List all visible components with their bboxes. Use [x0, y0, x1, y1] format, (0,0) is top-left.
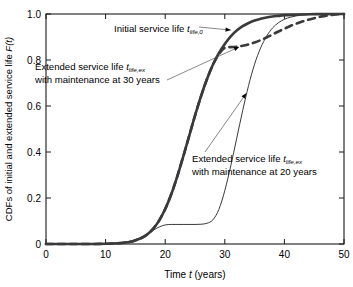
- x-axis-title: Time t (years): [164, 269, 225, 280]
- annotation-ext20-subscript: life,ex: [286, 158, 303, 165]
- annotation-ext30-subscript: life,ex: [129, 66, 146, 73]
- x-tick-label: 30: [219, 249, 231, 260]
- svg-text:CDFs of initial and extended s: CDFs of initial and extended service lif…: [3, 37, 14, 221]
- y-tick-label: 0: [35, 239, 41, 250]
- x-tick-label: 20: [160, 249, 172, 260]
- y-axis-title: CDFs of initial and extended service lif…: [3, 37, 14, 221]
- y-tick-label: 1.0: [27, 9, 41, 20]
- annotation-ext20-line2: with maintenance at 20 years: [191, 166, 317, 177]
- x-tick-label: 40: [279, 249, 291, 260]
- annotation-initial-subscript: life,0: [190, 28, 204, 35]
- annotation-ext30-text: Extended service life: [35, 61, 126, 72]
- x-axis-title-main: Time: [164, 269, 189, 280]
- y-tick-label: 0.2: [27, 193, 41, 204]
- y-axis-title-main: CDFs of initial and extended service lif…: [3, 52, 14, 222]
- x-tick-label: 0: [43, 249, 49, 260]
- cdf-line-chart: 01020304050 00.20.40.60.81.0 Time t (yea…: [0, 0, 353, 287]
- x-axis-title-unit: (years): [192, 269, 226, 280]
- chart-figure: 01020304050 00.20.40.60.81.0 Time t (yea…: [0, 0, 353, 287]
- y-axis-title-arg: (t): [3, 37, 14, 46]
- x-tick-label: 10: [100, 249, 112, 260]
- annotation-initial-text: Initial service life: [114, 23, 187, 34]
- x-tick-label: 50: [338, 249, 350, 260]
- annotation-ext20-text: Extended service life: [192, 153, 283, 164]
- annotation-ext30-line2: with maintenance at 30 years: [34, 74, 160, 85]
- y-tick-label: 0.6: [27, 101, 41, 112]
- y-tick-label: 0.4: [27, 147, 41, 158]
- svg-text:Time t (years): Time t (years): [164, 269, 225, 280]
